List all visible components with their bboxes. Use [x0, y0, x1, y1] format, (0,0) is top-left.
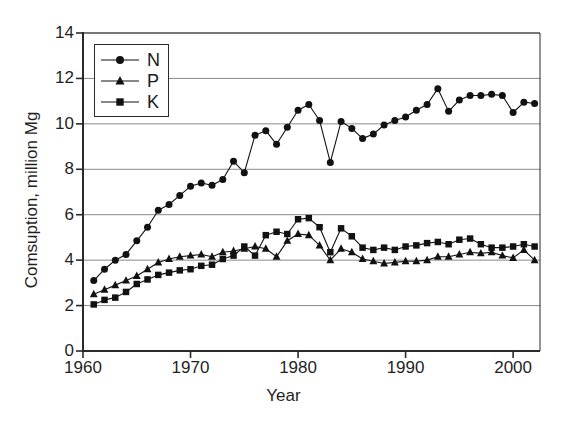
datapoint-N-1966 — [144, 224, 151, 231]
y-axis-title: Comsuption, million Mg — [22, 50, 42, 350]
datapoint-K-1973 — [220, 256, 226, 262]
datapoint-N-1985 — [348, 125, 355, 132]
datapoint-N-1977 — [262, 127, 269, 134]
datapoint-N-1991 — [413, 107, 420, 114]
datapoint-K-1980 — [295, 216, 301, 222]
legend-marker-glyph-N — [116, 56, 124, 64]
datapoint-N-1976 — [252, 132, 259, 139]
legend-marker-triangle-icon — [99, 72, 141, 90]
y-tick-label-12: 12 — [55, 68, 74, 88]
datapoint-K-1975 — [241, 243, 247, 249]
datapoint-N-1982 — [316, 117, 323, 124]
datapoint-N-1979 — [284, 124, 291, 131]
legend-marker-glyph-K — [116, 98, 123, 105]
legend-item-N: N — [99, 49, 160, 70]
datapoint-K-1966 — [144, 276, 150, 282]
x-tick-label-2000: 2000 — [494, 358, 532, 378]
datapoint-K-1965 — [134, 281, 140, 287]
x-tick-label-1980: 1980 — [279, 358, 317, 378]
datapoint-N-1981 — [305, 101, 312, 108]
datapoint-N-1997 — [477, 92, 484, 99]
x-axis-tick-labels: 19601970198019902000 — [0, 358, 567, 382]
datapoint-P-1971 — [197, 250, 205, 257]
datapoint-K-1995 — [456, 236, 462, 242]
datapoint-K-1977 — [263, 232, 269, 238]
y-tick-label-10: 10 — [55, 114, 74, 134]
datapoint-N-2001 — [520, 99, 527, 106]
datapoint-K-1961 — [91, 301, 97, 307]
datapoint-N-1968 — [166, 201, 173, 208]
datapoint-K-1962 — [101, 297, 107, 303]
datapoint-K-1992 — [424, 240, 430, 246]
datapoint-K-1963 — [112, 294, 118, 300]
datapoint-N-2002 — [531, 100, 538, 107]
datapoint-K-1981 — [306, 215, 312, 221]
datapoint-N-1990 — [402, 114, 409, 121]
legend-marker-square-icon — [99, 93, 141, 111]
datapoint-N-1994 — [445, 108, 452, 115]
datapoint-N-1983 — [327, 159, 334, 166]
datapoint-N-1973 — [219, 176, 226, 183]
datapoint-N-1995 — [456, 97, 463, 104]
datapoint-N-1992 — [424, 101, 431, 108]
datapoint-K-1989 — [392, 247, 398, 253]
datapoint-P-1996 — [466, 248, 474, 255]
datapoint-P-1984 — [337, 244, 345, 251]
legend-item-K: K — [99, 91, 160, 112]
datapoint-P-1979 — [283, 236, 291, 243]
datapoint-N-1998 — [488, 91, 495, 98]
datapoint-K-1976 — [252, 252, 258, 258]
x-axis-title: Year — [0, 386, 567, 406]
datapoint-K-1996 — [467, 235, 473, 241]
datapoint-K-1979 — [284, 231, 290, 237]
datapoint-N-1970 — [187, 183, 194, 190]
datapoint-N-1972 — [209, 182, 216, 189]
datapoint-K-2002 — [531, 243, 537, 249]
legend-label-P: P — [141, 72, 159, 90]
datapoint-K-1983 — [327, 249, 333, 255]
datapoint-N-1963 — [112, 257, 119, 264]
datapoint-K-1970 — [187, 266, 193, 272]
y-tick-label-14: 14 — [55, 23, 74, 43]
datapoint-K-1982 — [316, 224, 322, 230]
legend-item-P: P — [99, 70, 160, 91]
x-tick-label-1970: 1970 — [172, 358, 210, 378]
datapoint-K-1987 — [370, 247, 376, 253]
datapoint-N-1964 — [123, 251, 130, 258]
datapoint-K-1993 — [435, 239, 441, 245]
datapoint-K-1985 — [349, 233, 355, 239]
datapoint-P-1966 — [144, 265, 152, 272]
datapoint-K-1967 — [155, 272, 161, 278]
datapoint-N-2000 — [510, 109, 517, 116]
datapoint-N-1969 — [176, 192, 183, 199]
legend-label-K: K — [141, 93, 159, 111]
datapoint-N-1999 — [499, 92, 506, 99]
datapoint-K-1984 — [338, 225, 344, 231]
datapoint-K-1968 — [166, 269, 172, 275]
datapoint-K-2000 — [510, 243, 516, 249]
datapoint-P-1980 — [294, 230, 302, 237]
datapoint-N-1984 — [338, 118, 345, 125]
datapoint-N-1974 — [230, 158, 237, 165]
datapoint-N-1986 — [359, 135, 366, 142]
datapoint-K-1964 — [123, 289, 129, 295]
y-tick-label-6: 6 — [65, 205, 74, 225]
datapoint-K-1997 — [478, 241, 484, 247]
datapoint-N-1989 — [391, 117, 398, 124]
datapoint-N-1980 — [295, 107, 302, 114]
datapoint-K-1978 — [273, 229, 279, 235]
datapoint-K-1972 — [209, 261, 215, 267]
datapoint-N-1971 — [198, 179, 205, 186]
legend-marker-circle-icon — [99, 51, 141, 69]
datapoint-N-1993 — [434, 85, 441, 92]
datapoint-N-1987 — [370, 131, 377, 138]
datapoint-K-1994 — [445, 241, 451, 247]
datapoint-P-1993 — [434, 252, 442, 259]
chart-legend: NPK — [94, 44, 169, 117]
datapoint-K-1998 — [488, 244, 494, 250]
y-tick-label-4: 4 — [65, 250, 74, 270]
datapoint-N-1988 — [381, 121, 388, 128]
datapoint-P-1965 — [133, 272, 141, 279]
datapoint-K-1986 — [359, 244, 365, 250]
legend-label-N: N — [141, 51, 160, 69]
